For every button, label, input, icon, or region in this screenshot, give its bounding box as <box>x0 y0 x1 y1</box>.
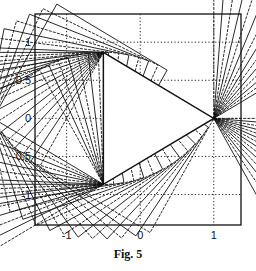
fan-2 <box>214 0 256 233</box>
figure-caption: Fig. 5 <box>114 247 143 261</box>
square-fans <box>0 0 256 250</box>
x-tick-label: 1 <box>211 229 217 241</box>
y-tick-label: 1 <box>25 36 31 48</box>
rotated-square <box>214 0 256 129</box>
y-tick-label: -0.5 <box>12 150 31 162</box>
x-tick-label: 0 <box>137 229 143 241</box>
x-tick-label: -1 <box>62 229 72 241</box>
rotated-square <box>0 61 103 231</box>
figure-5: -101 10.50-0.5-1 Fig. 5 <box>0 0 256 271</box>
x-axis-ticks: -101 <box>62 229 217 241</box>
y-tick-label: 0 <box>25 112 31 124</box>
inner-triangle <box>103 52 213 184</box>
y-tick-label: -1 <box>21 189 31 201</box>
y-tick-label: 0.5 <box>16 74 31 86</box>
